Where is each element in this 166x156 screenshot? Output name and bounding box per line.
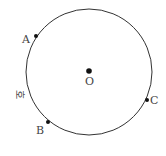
point-a-label: A [21, 33, 31, 46]
center-label: O [85, 75, 94, 88]
point-c-label: C [150, 94, 158, 107]
circle-diagram: O A B C 호 [0, 0, 166, 156]
center-point [86, 68, 92, 74]
point-b-label: B [36, 124, 44, 137]
point-c [145, 98, 149, 102]
point-a [34, 34, 38, 38]
arc-label: 호 [14, 90, 25, 99]
point-b [46, 120, 50, 124]
